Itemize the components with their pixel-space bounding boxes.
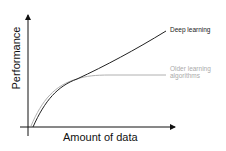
y-axis-label: Performance xyxy=(11,34,22,90)
legend-older-line1: Older learning xyxy=(170,65,211,72)
legend-older-line2: algorithms xyxy=(170,72,200,79)
legend-deep-learning: Deep learning xyxy=(170,27,210,34)
older-algorithms-curve xyxy=(31,75,166,126)
deep-learning-curve xyxy=(33,31,166,127)
x-axis-label: Amount of data xyxy=(63,132,138,143)
legend-older-algorithms: Older learning algorithms xyxy=(170,65,211,79)
